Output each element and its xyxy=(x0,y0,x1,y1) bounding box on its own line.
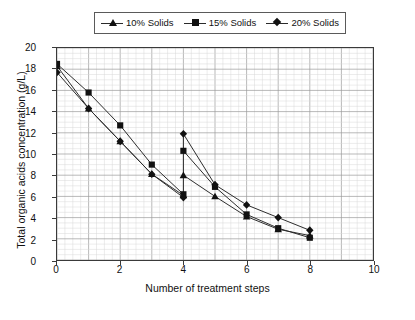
y-tick-mark xyxy=(52,133,56,134)
x-tick-label: 8 xyxy=(308,264,314,275)
y-tick-mark xyxy=(52,154,56,155)
x-tick-mark xyxy=(247,261,248,265)
y-tick-mark xyxy=(52,111,56,112)
chart-figure: 10% Solids 15% Solids 20% Solids 0246810… xyxy=(0,0,415,320)
y-tick-mark xyxy=(52,90,56,91)
x-tick-mark xyxy=(310,261,311,265)
x-tick-mark xyxy=(56,261,57,265)
x-tick-label: 0 xyxy=(53,264,59,275)
x-tick-mark xyxy=(183,261,184,265)
y-tick-mark xyxy=(52,218,56,219)
y-tick-mark xyxy=(52,47,56,48)
y-tick-label: 20 xyxy=(0,42,36,53)
y-tick-mark xyxy=(52,197,56,198)
plot-wrapper: 02468101214161820 0246810 Number of trea… xyxy=(0,0,415,320)
plot-area xyxy=(56,47,374,261)
x-tick-mark xyxy=(120,261,121,265)
x-tick-mark xyxy=(374,261,375,265)
y-tick-mark xyxy=(52,240,56,241)
y-axis-label: Total organic acids concentration (g/L) xyxy=(15,60,27,260)
data-series-layer xyxy=(57,48,373,260)
x-tick-label: 2 xyxy=(117,264,123,275)
y-tick-mark xyxy=(52,175,56,176)
x-tick-label: 6 xyxy=(244,264,250,275)
x-tick-label: 4 xyxy=(180,264,186,275)
y-tick-mark xyxy=(52,68,56,69)
x-axis-label: Number of treatment steps xyxy=(0,282,415,294)
x-tick-label: 10 xyxy=(368,264,379,275)
